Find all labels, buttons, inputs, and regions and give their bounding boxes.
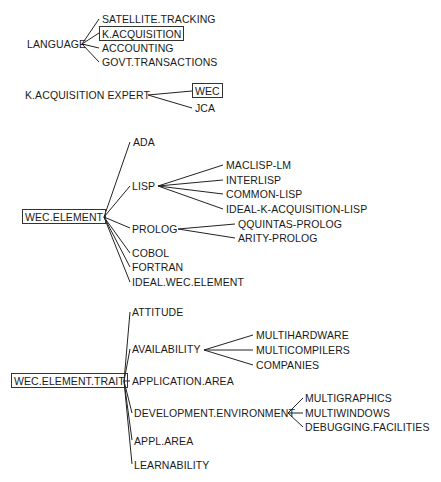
node-maclisp-lm: MACLISP-LM	[226, 159, 291, 171]
node-multiwindows: MULTIWINDOWS	[305, 407, 390, 419]
node-ideal-wec-element: IDEAL.WEC.ELEMENT	[132, 276, 244, 288]
node-appl-area: APPL.AREA	[134, 435, 193, 447]
node-lisp: LISP	[132, 180, 155, 192]
node-attitude: ATTITUDE	[132, 306, 183, 318]
node-application-area: APPLICATION.AREA	[132, 375, 234, 387]
node-development-environment: DEVELOPMENT.ENVIRONMENT	[134, 407, 295, 419]
node-learnability: LEARNABILITY	[134, 459, 209, 471]
node-prolog: PROLOG	[132, 223, 178, 235]
node-wec-element-trait-boxed: WEC.ELEMENT.TRAIT	[11, 373, 128, 388]
node-fortran: FORTRAN	[132, 261, 183, 273]
node-satellite-tracking: SATELLITE.TRACKING	[102, 13, 216, 25]
node-qquintas-prolog: QQUINTAS-PROLOG	[238, 218, 342, 230]
node-jca: JCA	[195, 102, 215, 114]
node-multihardware: MULTIHARDWARE	[256, 329, 349, 341]
node-availability: AVAILABILITY	[132, 343, 201, 355]
node-ideal-k-acquisition-lisp: IDEAL-K-ACQUISITION-LISP	[226, 203, 367, 215]
node-interlisp: INTERLISP	[226, 174, 281, 186]
node-multicompilers: MULTICOMPILERS	[256, 344, 350, 356]
node-language: LANGUAGE	[27, 38, 86, 50]
node-companies: COMPANIES	[256, 359, 319, 371]
node-wec-boxed: WEC	[192, 83, 223, 98]
node-arity-prolog: ARITY-PROLOG	[238, 232, 318, 244]
node-debugging-facilities: DEBUGGING.FACILITIES	[305, 421, 430, 433]
node-k-acquisition-boxed: K.ACQUISITION	[99, 26, 184, 41]
node-common-lisp: COMMON-LISP	[226, 188, 302, 200]
node-accounting: ACCOUNTING	[102, 42, 174, 54]
node-ada: ADA	[133, 136, 155, 148]
node-govt-transactions: GOVT.TRANSACTIONS	[102, 56, 217, 68]
node-k-acquisition-expert: K.ACQUISITION EXPERT	[25, 89, 150, 101]
node-cobol: COBOL	[132, 247, 169, 259]
node-multigraphics: MULTIGRAPHICS	[305, 392, 392, 404]
node-wec-element-boxed: WEC.ELEMENT	[22, 209, 106, 224]
